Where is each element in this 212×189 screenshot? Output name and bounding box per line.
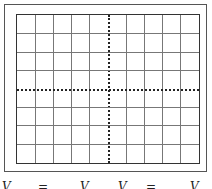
caption-unit2: V <box>190 180 199 189</box>
grid-line-horizontal <box>17 107 199 108</box>
voltage-captions: V = V V = V <box>0 180 212 189</box>
grid-line-horizontal <box>17 33 199 34</box>
oscilloscope-grid <box>16 14 200 164</box>
caption-unit1: V <box>80 180 89 189</box>
grid-line-horizontal <box>17 52 199 53</box>
caption-eq2: = <box>146 180 156 189</box>
grid-line-horizontal <box>17 144 199 145</box>
caption-v2: V <box>118 180 127 189</box>
caption-v1: V <box>2 180 11 189</box>
grid-line-horizontal <box>17 70 199 71</box>
grid-line-horizontal <box>17 125 199 126</box>
caption-eq1: = <box>38 180 48 189</box>
horizontal-axis <box>17 89 199 91</box>
